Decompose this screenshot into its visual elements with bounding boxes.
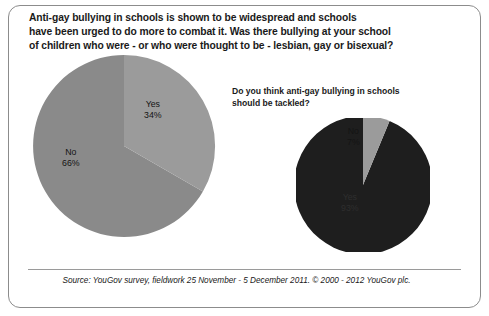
source-note: Source: YouGov survey, fieldwork 25 Nove… xyxy=(0,276,473,285)
pie-label-right-no-value: 7% xyxy=(347,137,360,148)
pie-label-right-no: No 7% xyxy=(347,126,360,148)
pie-label-left-yes: Yes 34% xyxy=(144,99,162,121)
sub-question-line-1: Do you think anti-gay bullying in school… xyxy=(232,86,412,98)
pie-chart-bullying-at-school xyxy=(30,55,218,237)
pie-chart-should-be-tackled xyxy=(296,118,430,252)
page-title: Anti-gay bullying in schools is shown to… xyxy=(29,11,389,54)
pie-label-left-no: No 66% xyxy=(62,147,80,169)
pie-label-left-yes-name: Yes xyxy=(144,99,162,110)
pie-label-left-no-name: No xyxy=(62,147,80,158)
pie-label-right-yes-name: Yes xyxy=(341,192,359,203)
sub-question-title: Do you think anti-gay bullying in school… xyxy=(232,86,412,109)
footer-divider xyxy=(28,269,461,270)
sub-question-line-2: should be tackled? xyxy=(232,98,412,110)
headline-line-2: have been urged to do more to combat it.… xyxy=(29,25,389,39)
pie-label-right-yes-value: 93% xyxy=(341,203,359,214)
screenshot-root: Anti-gay bullying in schools is shown to… xyxy=(0,0,489,316)
headline-line-3: of children who were - or who were thoug… xyxy=(29,39,389,53)
pie-label-right-yes: Yes 93% xyxy=(341,192,359,214)
pie-label-left-yes-value: 34% xyxy=(144,110,162,121)
pie-label-right-no-name: No xyxy=(347,126,360,137)
headline-line-1: Anti-gay bullying in schools is shown to… xyxy=(29,11,389,25)
pie-label-left-no-value: 66% xyxy=(62,158,80,169)
